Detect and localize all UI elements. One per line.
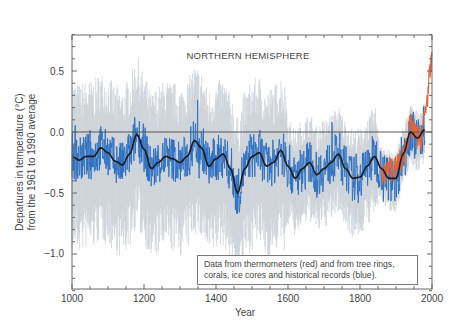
legend-line-2: corals, ice cores and historical records…: [204, 270, 417, 281]
legend-line-1: Data from thermometers (red) and from tr…: [204, 259, 417, 270]
x-axis-title: Year: [235, 307, 256, 318]
y-tick-label--1.0: −1.0: [44, 248, 64, 259]
y-axis-title-line2: from the 1961 to 1990 average: [26, 93, 37, 230]
x-tick-label-1600: 1600: [277, 293, 300, 304]
y-tick-label--0.5: −0.5: [44, 188, 64, 199]
y-axis-title-line1: Departures in temperature (°C): [14, 93, 25, 230]
x-tick-label-1200: 1200: [133, 293, 156, 304]
x-tick-label-1800: 1800: [349, 293, 372, 304]
legend-box: Data from thermometers (red) and from tr…: [197, 255, 418, 285]
x-tick-label-1400: 1400: [205, 293, 228, 304]
chart-title: NORTHERN HEMISPHERE: [187, 50, 310, 61]
x-tick-label-1000: 1000: [61, 293, 84, 304]
y-tick-label-0.5: 0.5: [50, 66, 64, 77]
y-tick-label-0.0: 0.0: [50, 127, 64, 138]
x-tick-label-2000: 2000: [421, 293, 444, 304]
